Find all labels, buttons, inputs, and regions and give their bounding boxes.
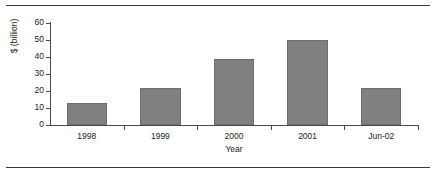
y-axis-tick-label: 60	[35, 17, 44, 28]
x-axis-title: Year	[50, 144, 418, 155]
y-axis-tick-label: 30	[35, 68, 44, 79]
y-axis-tick-label: 0	[39, 119, 44, 130]
y-axis-tick-mark	[46, 125, 50, 126]
y-axis-tick-mark	[46, 57, 50, 58]
y-axis-tick-mark	[46, 74, 50, 75]
x-axis-tick-mark	[418, 125, 419, 130]
x-axis-tick-mark	[344, 125, 345, 130]
x-axis-line	[50, 125, 418, 126]
x-axis-tick-label: 2000	[197, 131, 271, 142]
y-axis-tick-mark	[46, 108, 50, 109]
x-axis-tick-mark	[271, 125, 272, 130]
x-axis-tick-label: 1999	[124, 131, 198, 142]
y-axis-tick-label: 50	[35, 34, 44, 45]
y-axis-tick-mark	[46, 40, 50, 41]
y-axis-tick-label: 10	[35, 102, 44, 113]
x-axis-tick-label: 1998	[50, 131, 124, 142]
y-axis-tick-mark	[46, 23, 50, 24]
bar	[287, 40, 327, 125]
bar	[214, 59, 254, 125]
y-axis-tick-label: 40	[35, 51, 44, 62]
x-axis-tick-label: Jun-02	[344, 131, 418, 142]
top-divider-rule	[6, 5, 430, 6]
bottom-divider-rule	[6, 167, 430, 168]
chart-figure: $ (billion) Year 0102030405060 199819992…	[0, 0, 436, 177]
bar	[140, 88, 180, 125]
y-axis-tick-mark	[46, 91, 50, 92]
x-axis-tick-label: 2001	[271, 131, 345, 142]
x-axis-tick-mark	[124, 125, 125, 130]
y-axis-title-text: $ (billion)	[9, 11, 20, 61]
bar	[361, 88, 401, 125]
y-axis-title: $ (billion)	[9, 50, 20, 61]
bar	[67, 103, 107, 125]
y-axis-tick-label: 20	[35, 85, 44, 96]
plot-area: 0102030405060	[50, 23, 418, 125]
x-axis-tick-mark	[197, 125, 198, 130]
